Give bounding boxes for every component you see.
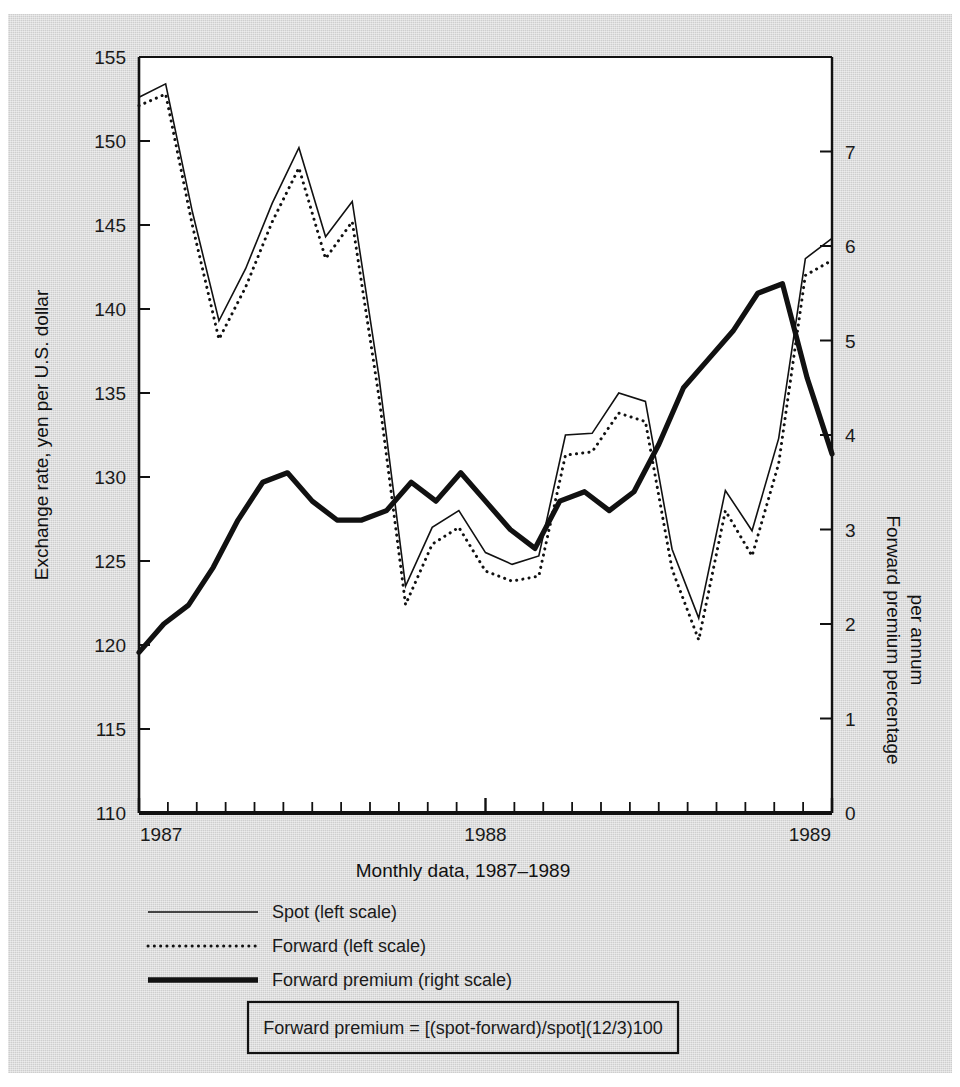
left-axis-tick-labels: 110115120125130135140145150155 xyxy=(94,47,126,824)
left-tick-label: 150 xyxy=(94,131,126,152)
legend-label-forward-premium: Forward premium (right scale) xyxy=(272,970,512,990)
left-tick-label: 120 xyxy=(94,635,126,656)
left-axis-title: Exchange rate, yen per U.S. dollar xyxy=(31,289,52,580)
left-tick-label: 155 xyxy=(94,47,126,68)
right-axis-title-line1: Forward premium percentage xyxy=(883,515,904,764)
legend-label-forward: Forward (left scale) xyxy=(272,936,426,956)
left-tick-label: 110 xyxy=(96,803,126,824)
right-tick-label: 6 xyxy=(845,236,856,257)
legend-label-spot: Spot (left scale) xyxy=(272,902,397,922)
left-tick-label: 125 xyxy=(94,551,126,572)
left-tick-label: 135 xyxy=(94,383,126,404)
formula-box: Forward premium = [(spot-forward)/spot](… xyxy=(248,1002,678,1053)
right-tick-label: 0 xyxy=(845,803,856,824)
x-axis-tick-labels: 198719881989 xyxy=(140,824,831,845)
right-tick-label: 4 xyxy=(845,425,856,446)
left-tick-label: 140 xyxy=(94,299,126,320)
x-axis-title: Monthly data, 1987–1989 xyxy=(356,860,570,881)
right-axis-title-line2: per annum xyxy=(907,595,928,686)
x-tick-label: 1988 xyxy=(464,824,506,845)
plot-area-background xyxy=(139,57,832,813)
legend: Spot (left scale) Forward (left scale) F… xyxy=(148,902,512,990)
right-tick-label: 2 xyxy=(845,614,856,635)
x-tick-label: 1987 xyxy=(140,824,182,845)
right-tick-label: 3 xyxy=(845,520,856,541)
left-tick-label: 145 xyxy=(94,215,126,236)
right-tick-label: 7 xyxy=(845,142,856,163)
exchange-rate-chart: 110115120125130135140145150155 01234567 … xyxy=(0,0,960,1087)
right-tick-label: 1 xyxy=(845,709,856,730)
page-root: 110115120125130135140145150155 01234567 … xyxy=(0,0,960,1087)
right-tick-label: 5 xyxy=(845,331,856,352)
left-tick-label: 115 xyxy=(96,719,126,740)
formula-box-text: Forward premium = [(spot-forward)/spot](… xyxy=(263,1018,663,1038)
figure-container: 110115120125130135140145150155 01234567 … xyxy=(0,0,960,1087)
x-tick-label: 1989 xyxy=(789,824,831,845)
right-axis-tick-labels: 01234567 xyxy=(845,142,856,825)
left-tick-label: 130 xyxy=(94,467,126,488)
